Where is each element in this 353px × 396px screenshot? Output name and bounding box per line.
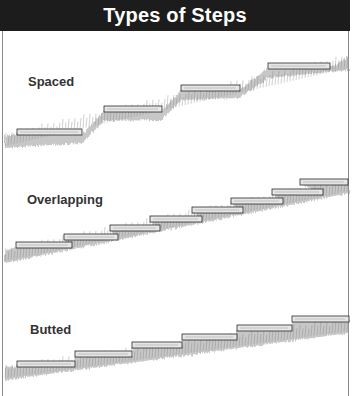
step-boards <box>16 63 349 367</box>
grass-butted <box>5 319 349 380</box>
steps-illustration <box>0 0 353 396</box>
